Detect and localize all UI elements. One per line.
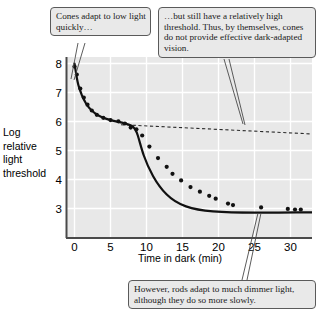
y-axis-label-line-2: relative [3,140,61,154]
svg-text:8: 8 [56,58,62,70]
y-axis-label: Log relative light threshold [3,126,61,181]
svg-text:7: 7 [56,87,62,99]
callout-cones: Cones adapt to low light quickly… [50,7,151,36]
svg-text:0: 0 [71,241,77,253]
x-tick-labels: 0 5 10 15 20 25 30 [71,241,297,253]
svg-text:5: 5 [107,241,113,253]
svg-text:15: 15 [176,241,189,253]
plot-area-background [66,57,312,237]
svg-text:3: 3 [56,203,62,215]
callout-threshold: …but still have a relatively high thresh… [158,7,316,58]
x-axis-label: Time in dark (min) [110,252,250,264]
y-axis-label-line-3: light [3,153,61,167]
svg-text:20: 20 [212,241,225,253]
y-axis-label-line-1: Log [3,126,61,140]
svg-text:10: 10 [140,241,153,253]
svg-text:30: 30 [284,241,297,253]
y-axis-label-line-4: threshold [3,167,61,181]
callout-rods: However, rods adapt to much dimmer light… [128,280,316,309]
